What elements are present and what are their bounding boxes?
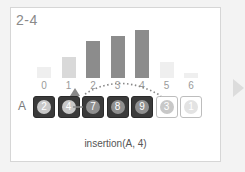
diagram-panel: 2-4 0123456 A 2478931 insertion(A, 4) <box>10 7 221 162</box>
next-arrow-icon[interactable] <box>233 79 244 97</box>
operation-caption: insertion(A, 4) <box>11 138 220 149</box>
